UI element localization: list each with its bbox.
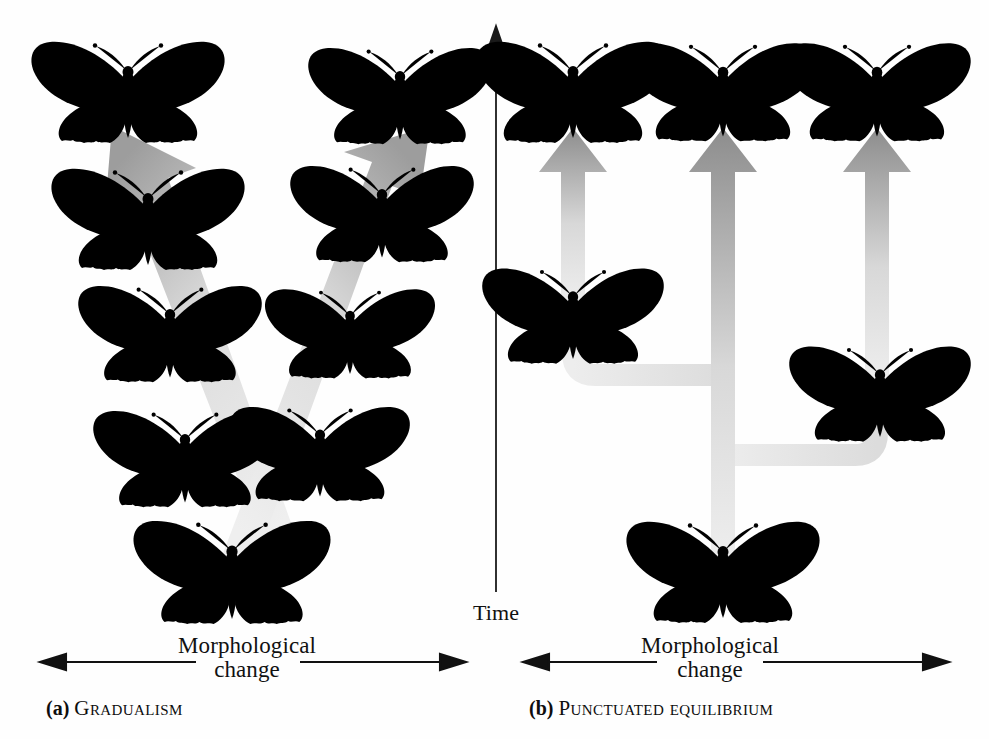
evolution-figure: Morphological change (a)Gradualism Time (0, 0, 989, 739)
panel-a-caption: (a)Gradualism (46, 696, 183, 721)
morphological-change-label-b: Morphological change (635, 634, 785, 682)
panel-punctuated-equilibrium: Morphological change (b)Punctuated equil… (495, 0, 989, 739)
panel-gradualism: Morphological change (a)Gradualism (0, 0, 494, 739)
morphological-change-axis-a (0, 0, 494, 739)
panel-b-caption: (b)Punctuated equilibrium (529, 696, 773, 721)
panel-b-name: Punctuated equilibrium (553, 696, 773, 720)
panel-a-tag: (a) (46, 697, 69, 719)
morphological-change-axis-b (495, 0, 989, 739)
panel-b-tag: (b) (529, 697, 553, 719)
morphological-change-label-a: Morphological change (172, 634, 322, 682)
panel-a-name: Gradualism (69, 696, 182, 720)
